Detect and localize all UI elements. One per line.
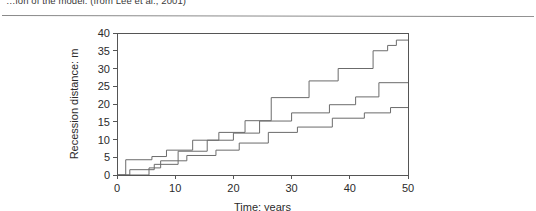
chart-axes-group	[117, 33, 408, 175]
chart-series-group	[117, 40, 408, 175]
axis-spines	[117, 33, 408, 175]
y-axis-title: Recession distance: m	[68, 49, 80, 160]
y-axis-tick-label: 25	[98, 80, 110, 92]
x-axis-tick-label: 30	[285, 182, 297, 194]
figure-caption-fragment: …ion of the model. (from Lee et al., 200…	[0, 0, 300, 9]
y-axis-tick-label: 0	[104, 169, 110, 181]
y-axis-tick-label: 15	[98, 116, 110, 128]
y-axis-tick-labels: 0510152025303540	[98, 27, 117, 181]
x-axis-tick-label: 20	[227, 182, 239, 194]
figure-caption-text: …ion of the model. (from Lee et al., 200…	[6, 0, 186, 6]
x-axis-tick-label: 40	[344, 182, 356, 194]
recession-distance-step-chart: 0510152025303540 01020304050 Time: years…	[0, 18, 536, 211]
x-axis-tick-label: 0	[114, 182, 120, 194]
x-axis-tick-label: 50	[402, 182, 414, 194]
y-axis-tick-label: 40	[98, 27, 110, 39]
x-axis-tick-label: 10	[169, 182, 181, 194]
y-axis-tick-label: 30	[98, 63, 110, 75]
chart-line-realisation-3	[117, 108, 408, 175]
y-axis-tick-label: 20	[98, 98, 110, 110]
y-axis-tick-label: 35	[98, 45, 110, 57]
x-axis-title: Time: years	[234, 201, 292, 211]
page-root: …ion of the model. (from Lee et al., 200…	[0, 0, 536, 211]
x-axis-tick-labels: 01020304050	[114, 175, 414, 194]
y-axis-tick-label: 5	[104, 151, 110, 163]
figure-chart: 0510152025303540 01020304050 Time: years…	[0, 18, 536, 211]
horizontal-divider	[2, 15, 534, 17]
chart-line-realisation-1	[117, 40, 408, 175]
y-axis-tick-label: 10	[98, 134, 110, 146]
